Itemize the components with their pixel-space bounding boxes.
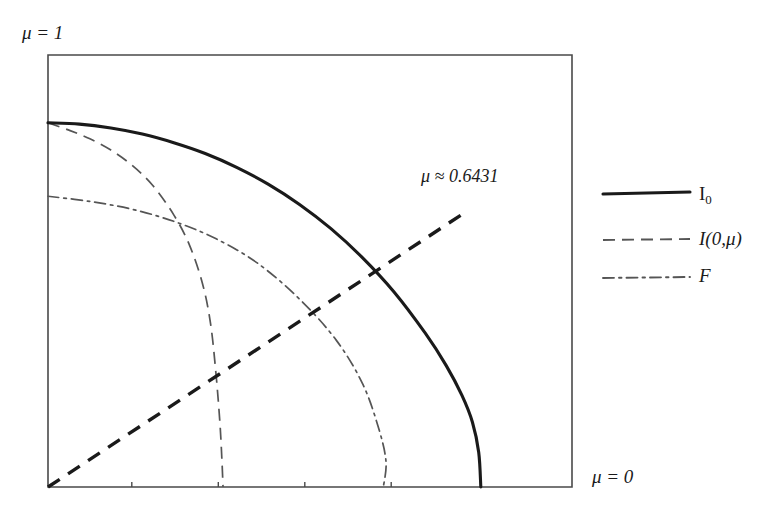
axis-label-mu-1: μ = 1 xyxy=(22,22,63,44)
annotation-mu-critical: μ ≈ 0.6431 xyxy=(421,166,498,187)
curve-I-0-mu xyxy=(48,123,223,487)
legend-sample-solid xyxy=(603,192,690,194)
legend-item-label-I-0-mu: I(0,μ) xyxy=(699,228,742,250)
legend-item-label-F: F xyxy=(699,265,711,287)
legend-sample-dashdot xyxy=(603,277,690,278)
scientific-figure xyxy=(0,0,783,531)
curve-F xyxy=(48,196,386,487)
legend-samples xyxy=(603,192,690,278)
legend-item-label-I0: I0 xyxy=(699,183,712,208)
plot-frame xyxy=(48,55,572,487)
axis-label-mu-0: μ = 0 xyxy=(592,466,633,488)
curve-I0 xyxy=(48,123,481,487)
legend-sample-dashed xyxy=(603,239,690,240)
mu-critical-line xyxy=(48,213,465,487)
data-curves xyxy=(48,123,481,487)
